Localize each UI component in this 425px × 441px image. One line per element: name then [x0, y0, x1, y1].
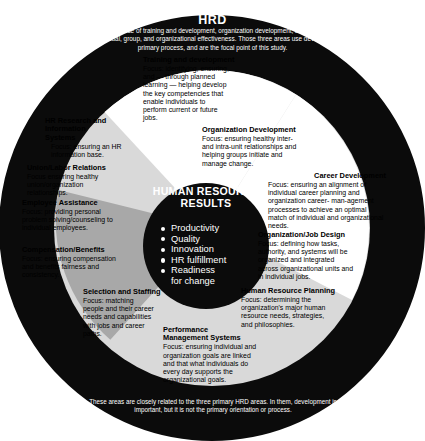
segment-title: Career Development	[268, 172, 386, 180]
segment-body: Focus: identifying, ensuring, and — thro…	[143, 65, 231, 122]
segment-hr-research-and-information-systems: HR Research and Information Systems Focu…	[45, 117, 149, 159]
segment-career-development: Career Development Focus: ensuring an al…	[268, 172, 394, 230]
segment-title: Human Resource Planning	[241, 287, 367, 295]
segment-body: Focus: ensuring healthy inter- and intra…	[202, 135, 297, 168]
segment-body: Focus: ensuring compensation and benefit…	[22, 255, 118, 280]
segment-body: Focus: determining the organization's ma…	[241, 296, 327, 329]
segment-body: Focus: providing personal problem solvin…	[22, 208, 114, 233]
segment-title: Training and development	[143, 56, 263, 64]
segment-title: Organization/Job Design	[258, 231, 384, 239]
list-item: Readiness	[161, 265, 263, 276]
bullet-icon	[161, 258, 165, 262]
bullet-icon	[161, 227, 165, 231]
list-item: HR fulfillment	[161, 255, 263, 266]
segment-title: Employee Assistance	[22, 199, 138, 207]
segment-organization-development: Organization Development Focus: ensuring…	[202, 126, 324, 168]
bullet-icon	[161, 248, 165, 252]
footer-description: These areas are closely related to the t…	[78, 398, 348, 414]
segment-union-labor-relations: Union/Labor Relations Focus ensuring hea…	[27, 164, 139, 198]
banner-title: HRD	[0, 13, 425, 27]
segment-title: Union/Labor Relations	[27, 164, 139, 172]
segment-compensation-benefits: Compensation/Benefits Focus: ensuring co…	[22, 246, 142, 280]
segment-training-and-development: Training and development Focus: identify…	[143, 56, 263, 122]
segment-performance-management-systems: Performance Management Systems Focus: en…	[163, 326, 279, 384]
list-item: for change	[161, 276, 263, 287]
segment-body: Focus: defining how tasks, authority, an…	[258, 240, 354, 281]
segment-employee-assistance: Employee Assistance Focus: providing per…	[22, 199, 138, 233]
segment-title: Organization Development	[202, 126, 324, 134]
bullet-icon	[161, 269, 165, 273]
segment-title: Performance Management Systems	[163, 326, 247, 343]
list-item: Quality	[161, 234, 263, 245]
segment-body: Focus: matching people and their career …	[83, 297, 155, 338]
segment-title: Compensation/Benefits	[22, 246, 142, 254]
list-item: Productivity	[161, 223, 263, 234]
segment-body: Focus: ensuring an HR information base.	[45, 143, 125, 159]
segment-title: HR Research and Information Systems	[45, 117, 107, 142]
segment-human-resource-planning: Human Resource Planning Focus: determini…	[241, 287, 367, 329]
list-item: Innovation	[161, 244, 263, 255]
core-results-list: Productivity Quality Innovation HR fulfi…	[161, 223, 263, 287]
banner-description: HRD is the integrated use of training an…	[60, 27, 365, 52]
segment-body: Focus: ensuring individual and organizat…	[163, 343, 257, 384]
segment-organization-job-design: Organization/Job Design Focus: defining …	[258, 231, 384, 281]
segment-title: Selection and Staffing	[83, 288, 193, 296]
segment-body: Focus: ensuring an alignment of individu…	[268, 181, 386, 230]
hrd-wheel-diagram: HRD HRD is the integrated use of trainin…	[0, 0, 425, 441]
segment-body: Focus ensuring healthy union/organizatio…	[27, 173, 99, 198]
core-title: HUMAN RESOURCE RESULTS	[150, 186, 262, 209]
bullet-icon	[161, 237, 165, 241]
